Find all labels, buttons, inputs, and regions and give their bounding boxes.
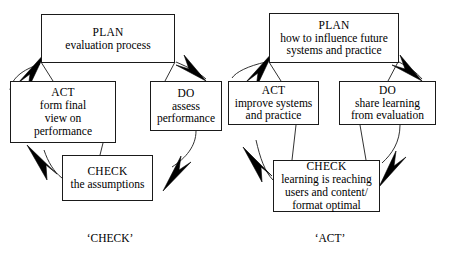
node-title: CHECK (307, 160, 347, 173)
arrowhead-left-plan-to-do (176, 55, 206, 81)
arrowhead-right-check-to-act (243, 147, 272, 182)
node-right-do[interactable]: DO share learning from evaluation (339, 81, 436, 125)
node-left-plan[interactable]: PLAN evaluation process (41, 14, 175, 63)
node-description: assess performance (157, 100, 215, 126)
connector-right-plan-do-stub (388, 62, 398, 81)
node-description: how to influence future systems and prac… (280, 32, 388, 58)
node-right-plan[interactable]: PLAN how to influence future systems and… (269, 13, 399, 63)
node-title: ACT (262, 84, 286, 97)
connector-left-act-check-stub (100, 143, 103, 155)
connector-right-do-to-check (382, 125, 400, 163)
node-title: PLAN (93, 26, 124, 39)
node-description: learning is reaching users and content/ … (281, 173, 372, 212)
node-title: CHECK (88, 165, 128, 178)
connector-right-act-check-stub (292, 125, 296, 160)
connector-right-do-check-stub (360, 125, 366, 160)
node-left-check[interactable]: CHECK the assumptions (62, 155, 153, 201)
node-left-do[interactable]: DO assess performance (150, 81, 222, 131)
node-title: DO (177, 87, 194, 100)
node-title: ACT (51, 86, 75, 99)
node-description: the assumptions (71, 178, 145, 191)
node-title: PLAN (319, 19, 350, 32)
node-description: improve systems and practice (235, 97, 313, 123)
node-left-act[interactable]: ACT form final view on performance (10, 81, 116, 143)
node-description: evaluation process (65, 39, 150, 52)
cycle-caption-check: ‘CHECK’ (70, 232, 150, 244)
node-right-act[interactable]: ACT improve systems and practice (228, 81, 319, 125)
node-description: form final view on performance (34, 99, 92, 138)
connector-right-plan-act-stub (269, 62, 281, 81)
arrowhead-right-do-to-check (379, 151, 406, 187)
node-title: DO (379, 84, 396, 97)
cycle-caption-act: ‘ACT’ (290, 232, 370, 244)
connector-left-plan-do-stub (165, 62, 175, 81)
node-right-check[interactable]: CHECK learning is reaching users and con… (273, 160, 380, 212)
connector-left-do-to-check (172, 131, 196, 167)
arrowhead-left-check-to-act (27, 145, 57, 180)
node-description: share learning from evaluation (351, 97, 424, 123)
connector-left-plan-act-stub (41, 62, 53, 81)
arrowhead-left-do-to-check (163, 156, 191, 191)
